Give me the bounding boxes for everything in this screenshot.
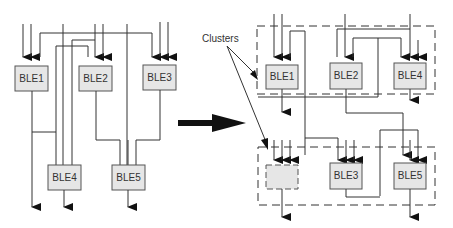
svg-text:BLE5: BLE5 xyxy=(398,170,423,181)
transform-arrow-icon xyxy=(178,114,246,132)
right-clustered: BLE1 BLE2 BLE4 BLE3 BLE5 xyxy=(257,14,435,217)
ble-clustering-diagram: BLE1 BLE2 BLE3 BLE4 BLE5 xyxy=(0,0,453,228)
svg-text:BLE3: BLE3 xyxy=(147,72,172,83)
ble4-left: BLE4 xyxy=(48,165,81,190)
ble2-right: BLE2 xyxy=(330,63,362,89)
ble2-left: BLE2 xyxy=(79,66,112,91)
svg-text:BLE1: BLE1 xyxy=(19,73,44,84)
cluster-pointer-arrows xyxy=(227,46,268,150)
empty-ble-slot xyxy=(266,165,298,189)
ble3-right: BLE3 xyxy=(330,163,362,189)
svg-text:BLE4: BLE4 xyxy=(398,70,423,81)
svg-text:BLE2: BLE2 xyxy=(334,70,359,81)
svg-text:BLE2: BLE2 xyxy=(83,73,108,84)
svg-text:BLE4: BLE4 xyxy=(52,172,77,183)
ble5-right: BLE5 xyxy=(394,163,426,189)
ble1-right: BLE1 xyxy=(266,65,298,89)
svg-text:BLE3: BLE3 xyxy=(334,170,359,181)
ble3-left: BLE3 xyxy=(143,65,176,90)
ble1-left: BLE1 xyxy=(15,66,48,91)
left-netlist: BLE1 BLE2 BLE3 BLE4 BLE5 xyxy=(15,22,176,207)
clusters-label: Clusters xyxy=(202,33,239,44)
ble5-left: BLE5 xyxy=(112,165,145,190)
svg-text:BLE1: BLE1 xyxy=(270,71,295,82)
svg-text:BLE5: BLE5 xyxy=(116,172,141,183)
ble4-right: BLE4 xyxy=(394,63,426,89)
